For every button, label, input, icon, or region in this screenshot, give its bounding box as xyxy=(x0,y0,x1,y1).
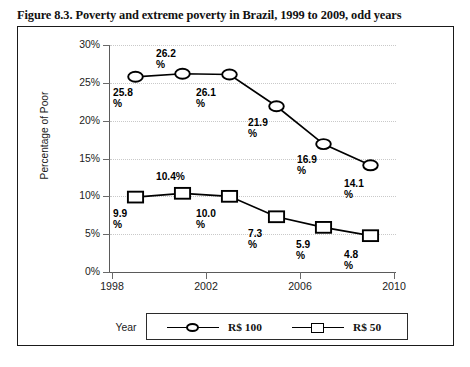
data-label-r100: 25.8 % xyxy=(113,88,133,109)
data-label-r100: 26.2 % xyxy=(156,49,176,70)
data-point-marker[interactable] xyxy=(175,69,190,79)
data-label-r50: 10.4% xyxy=(156,172,185,183)
data-point-marker[interactable] xyxy=(363,230,378,241)
series-graphics xyxy=(0,0,470,367)
legend-item-label: R$ 50 xyxy=(353,321,381,333)
data-label-r100: 14.1 % xyxy=(344,179,364,200)
data-point-marker[interactable] xyxy=(175,188,190,199)
legend-item-label: R$ 100 xyxy=(228,321,262,333)
data-point-marker[interactable] xyxy=(363,160,378,170)
data-point-marker[interactable] xyxy=(316,222,331,233)
data-point-marker[interactable] xyxy=(222,191,237,202)
chart-legend: R$ 100 R$ 50 xyxy=(146,313,408,340)
data-point-marker[interactable] xyxy=(269,211,284,222)
data-point-marker[interactable] xyxy=(316,139,331,149)
x-axis-title: Year xyxy=(108,322,144,333)
data-label-r50: 9.9 % xyxy=(113,209,127,230)
data-point-marker[interactable] xyxy=(128,72,143,82)
legend-item-r50[interactable]: R$ 50 xyxy=(292,319,381,335)
data-label-r100: 16.9 % xyxy=(297,155,317,176)
data-point-marker[interactable] xyxy=(222,70,237,80)
data-label-r100: 26.1 % xyxy=(196,88,216,109)
data-label-r50: 5.9 % xyxy=(296,240,310,261)
data-label-r50: 10.0 % xyxy=(196,209,216,230)
data-label-r50: 7.3 % xyxy=(248,229,262,250)
circle-marker-icon xyxy=(167,320,219,334)
figure-container: Figure 8.3. Poverty and extreme poverty … xyxy=(0,0,470,367)
data-label-r100: 21.9 % xyxy=(248,118,268,139)
legend-item-r100[interactable]: R$ 100 xyxy=(167,319,262,335)
data-point-marker[interactable] xyxy=(269,101,284,111)
data-label-r50: 4.8 % xyxy=(344,250,358,271)
chart-plot-area: 30% 25% 20% 15% 10% 5% 0% Percentage of … xyxy=(0,0,470,367)
data-point-marker[interactable] xyxy=(128,192,143,203)
square-marker-icon xyxy=(292,320,344,334)
